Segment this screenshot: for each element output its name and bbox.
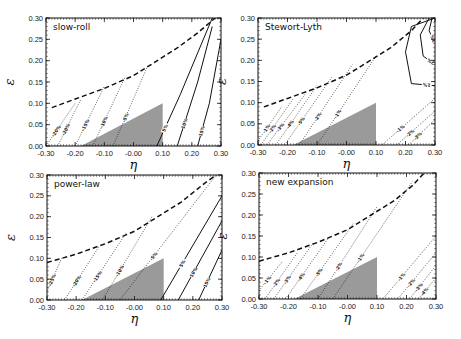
shaded-region [294,257,377,299]
panel-title: power-law [54,179,100,189]
contour-label: -4% [285,119,295,130]
y-tick-label: 0.10 [28,99,43,108]
contour-label: -2% [334,261,344,272]
x-tick-label: -0.10 [309,302,326,311]
panel-slow-roll: -20%-20%-15%-10%-5%5%10%15%-0.30-0.20-0.… [2,14,228,172]
contour-label: -10% [99,115,109,129]
contour-label: -15% [92,270,103,284]
contour-label: -1% [333,108,343,119]
x-tick-label: 0.20 [398,148,413,157]
x-tick-label: -0.20 [280,302,297,311]
contour-label: -2% [272,277,282,288]
y-tick-label: 0.20 [241,211,256,220]
x-tick-label: 0.10 [370,302,385,311]
y-tick-label: 0.30 [29,171,44,180]
contour-label: 1% [422,82,431,88]
contour-line [406,18,436,86]
contour-label: -5% [296,116,306,127]
x-tick-label: 0.20 [185,149,200,158]
x-tick-label: 0.30 [428,148,443,157]
x-tick-label: -0.20 [67,149,84,158]
x-tick-label: 0.30 [215,303,230,312]
contour-label: -5% [149,251,159,262]
panel-stewart-lyth: -1%-2%-3%-4%-5%-2%-1%1%2%3%-1%-2%-3%-0.3… [214,14,442,171]
y-tick-label: 0.30 [28,14,43,23]
x-tick-label: 0.20 [186,303,201,312]
contour-label: -2% [406,277,416,288]
y-tick-label: 0.25 [28,35,43,44]
x-tick-label: 0.30 [214,149,229,158]
y-axis-label: ε [215,232,230,239]
shaded-region [81,103,163,146]
y-tick-label: 0.00 [240,141,255,150]
y-tick-label: 0.30 [240,14,255,23]
x-tick-label: -0.20 [68,303,85,312]
contour-label: 15% [202,276,211,288]
contour-label: -25% [47,273,57,287]
y-axis-label: ε [2,78,17,85]
panel-power-law: -25%-20%-15%-10%-5%5%10%15%-0.30-0.20-0.… [3,171,229,326]
contour-label: -10% [114,264,125,278]
x-axis-label: η [343,156,351,171]
y-tick-label: 0.05 [240,119,255,128]
y-tick-label: 0.00 [241,295,256,304]
contour-label: 15% [198,125,206,137]
contour-line [161,196,222,300]
panel-new-expansion: -1%-2%-3%-4%-5%-2%-1%-1%-2%-3%-4%-0.30-0… [215,169,443,325]
x-axis-label: η [130,157,138,172]
contour-label: -1% [395,123,406,133]
contour-label: -20% [61,122,71,136]
y-tick-label: 0.25 [241,190,256,199]
x-tick-label: -0.20 [279,148,296,157]
y-axis-label: ε [214,78,229,85]
contour-label: 10% [180,117,188,129]
contour-line [265,253,297,299]
y-tick-label: 0.05 [29,275,44,284]
panel-title: Stewort-Lyth [265,22,322,32]
contour-label: 10% [189,266,199,278]
y-tick-label: 0.00 [29,296,44,305]
x-tick-label: 0.30 [429,302,444,311]
x-tick-label: 0.20 [399,302,414,311]
y-tick-label: 0.25 [240,35,255,44]
y-tick-label: 0.20 [28,56,43,65]
y-tick-label: 0.00 [28,142,43,151]
contour-line [259,261,283,290]
contour-label: -3% [282,274,292,285]
x-tick-label: -0.10 [308,148,325,157]
x-tick-label: 0.10 [155,149,170,158]
y-tick-label: 0.25 [29,191,44,200]
x-tick-label: -0.10 [96,149,113,158]
y-axis-label: ε [3,234,18,241]
y-tick-label: 0.10 [29,254,44,263]
y-tick-label: 0.15 [240,77,255,86]
x-tick-label: -0.10 [97,303,114,312]
shaded-region [293,103,376,145]
y-tick-label: 0.05 [28,120,43,129]
contour-label: -1% [356,252,366,263]
y-tick-label: 0.10 [240,98,255,107]
contour-label: -3% [275,122,285,133]
y-tick-label: 0.10 [241,253,256,262]
y-tick-label: 0.30 [241,169,256,178]
contour-label: -20% [51,124,63,138]
contour-label: -2% [313,111,323,122]
figure-canvas: -20%-20%-15%-10%-5%5%10%15%-0.30-0.20-0.… [0,0,461,339]
x-axis-label: η [344,310,352,325]
contour-label: -1% [262,275,272,286]
y-tick-label: 0.05 [241,274,256,283]
panel-title: new expansion [266,177,334,187]
y-tick-label: 0.20 [240,56,255,65]
panel-title: slow-roll [53,22,90,32]
contour-line [46,103,75,146]
contour-label: -15% [80,118,90,132]
contour-line [58,99,81,146]
y-tick-label: 0.20 [29,212,44,221]
contour-label: -4% [296,271,306,282]
contour-label: -5% [314,267,324,278]
x-axis-label: η [131,311,139,326]
y-tick-label: 0.15 [28,78,43,87]
contour-label: -20% [71,274,82,288]
x-tick-label: 0.10 [156,303,171,312]
y-tick-label: 0.15 [29,233,44,242]
